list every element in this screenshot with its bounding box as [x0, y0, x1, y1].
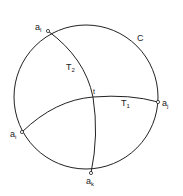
label-al-sub: l	[40, 27, 41, 33]
label-t1: T1	[121, 98, 131, 109]
label-al: al	[35, 22, 41, 33]
point-ak-marker	[89, 171, 92, 174]
label-t: t	[93, 88, 95, 95]
point-al-marker	[46, 29, 49, 32]
point-ai-marker	[20, 130, 23, 133]
label-t1-sub: 1	[127, 103, 131, 109]
label-t2: T2	[66, 62, 76, 73]
point-aj-marker	[156, 100, 159, 103]
label-t2-sub: 2	[72, 67, 76, 73]
diagram-canvas: C al aj ai ak t T1 T2	[0, 0, 183, 196]
arc-t2	[48, 31, 96, 173]
label-aj-sub: j	[166, 103, 168, 109]
label-aj: aj	[162, 98, 168, 109]
label-ak-sub: k	[91, 181, 95, 187]
label-ai-sub: i	[15, 134, 16, 140]
arc-t1	[22, 96, 158, 132]
circle-c	[14, 25, 158, 169]
label-c: C	[137, 33, 144, 43]
label-ai: ai	[10, 129, 16, 140]
label-ak: ak	[86, 176, 95, 187]
